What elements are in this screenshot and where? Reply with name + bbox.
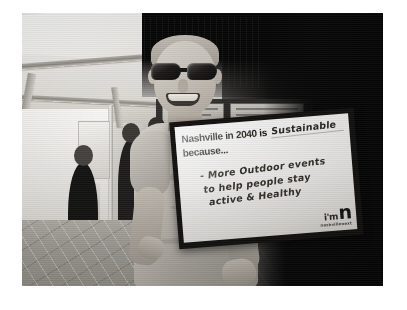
- sunglasses-icon: [149, 63, 221, 80]
- background-person-head: [74, 145, 93, 166]
- sign-fill-in-answer: Sustainable: [271, 118, 344, 139]
- sunglasses-lens: [187, 63, 217, 80]
- sign-writing-surface: Nashville in 2040 is Sustainable because…: [175, 113, 358, 243]
- subject-smile: [166, 93, 200, 106]
- whiteboard-sign: Nashville in 2040 is Sustainable because…: [169, 108, 364, 249]
- sign-prompt-prefix: Nashville in 2040 is: [181, 127, 267, 145]
- logo-n-letter: n: [338, 205, 352, 222]
- subject-nose: [178, 79, 188, 93]
- nashvillenext-logo: i'm n nashvillenext: [319, 205, 352, 228]
- sign-handwritten-response: - More Outdoor events to help people sta…: [199, 151, 345, 210]
- photograph: Nashville in 2040 is Sustainable because…: [22, 13, 383, 286]
- subject-teeth: [168, 94, 198, 101]
- sign-prompt-row: Nashville in 2040 is Sustainable: [181, 119, 345, 145]
- logo-wordmark: nashvillenext: [320, 221, 352, 228]
- sign-prompt-suffix: because...: [182, 144, 228, 159]
- photo-page: Nashville in 2040 is Sustainable because…: [0, 0, 407, 310]
- sunglasses-lens: [151, 63, 181, 80]
